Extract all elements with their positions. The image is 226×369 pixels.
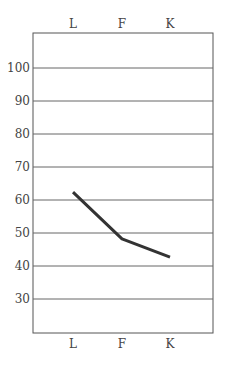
x-category-label: L bbox=[69, 337, 77, 351]
gridlines bbox=[33, 68, 213, 299]
y-tick-label: 60 bbox=[15, 193, 30, 207]
x-axis-top-labels: LFK bbox=[69, 17, 176, 31]
y-tick-label: 90 bbox=[15, 94, 30, 108]
plot-frame bbox=[33, 33, 213, 333]
y-tick-label: 70 bbox=[15, 160, 30, 174]
x-category-label: L bbox=[69, 17, 77, 31]
y-tick-label: 50 bbox=[15, 226, 30, 240]
y-tick-label: 30 bbox=[15, 292, 30, 306]
x-category-label: K bbox=[166, 17, 176, 31]
data-line bbox=[73, 192, 170, 257]
x-category-label: F bbox=[118, 337, 126, 351]
y-tick-label: 40 bbox=[15, 259, 30, 273]
x-category-label: F bbox=[118, 17, 126, 31]
y-tick-label: 80 bbox=[15, 127, 30, 141]
x-category-label: K bbox=[166, 337, 176, 351]
y-axis-tick-labels: 30405060708090100 bbox=[7, 61, 30, 306]
y-tick-label: 100 bbox=[7, 61, 30, 75]
line-chart: 30405060708090100 LFK LFK bbox=[0, 0, 226, 369]
x-axis-bottom-labels: LFK bbox=[69, 337, 176, 351]
